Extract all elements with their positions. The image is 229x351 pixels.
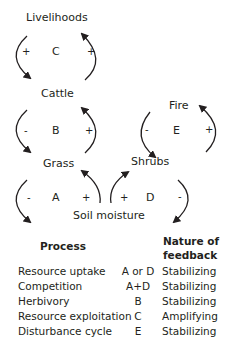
- table-row: Herbivory B Stabilizing: [0, 295, 229, 309]
- loop-d-label: D: [146, 191, 154, 204]
- node-fire: Fire: [169, 99, 189, 112]
- process-cell: Herbivory: [18, 295, 69, 307]
- loop-b-left-sign: -: [24, 125, 28, 136]
- loop-c-right-sign: +: [87, 46, 95, 57]
- node-livelihoods: Livelihoods: [26, 11, 88, 24]
- node-grass: Grass: [43, 157, 74, 170]
- node-shrubs: Shrubs: [131, 155, 169, 168]
- feedback-cell: Stabilizing: [162, 280, 216, 292]
- process-cell: Resource uptake: [18, 265, 106, 277]
- loop-d-right-sign: -: [178, 191, 182, 202]
- loop-b-label: B: [52, 124, 60, 137]
- feedback-cell: Stabilizing: [162, 295, 216, 307]
- loop-c-left-sign: +: [22, 46, 30, 57]
- feedback-cell: Stabilizing: [162, 325, 216, 337]
- table-row: Resource exploitation C Amplifying: [0, 310, 229, 324]
- loop-b-right-sign: +: [85, 125, 93, 136]
- loop-e-left-sign: -: [145, 124, 149, 135]
- loop-cell: A or D: [118, 265, 158, 277]
- header-feedback-line2: feedback: [163, 248, 217, 262]
- loop-cell: C: [118, 310, 158, 322]
- loop-e-right-sign: +: [205, 124, 213, 135]
- arrow-livelihoods-to-cattle: [16, 36, 30, 78]
- loop-cell: B: [118, 295, 158, 307]
- header-feedback-line1: Nature of: [163, 234, 219, 248]
- header-process: Process: [40, 239, 86, 253]
- arrow-cattle-to-livelihoods: [82, 34, 96, 80]
- loop-a-right-sign: +: [82, 192, 90, 203]
- loop-cell: A+D: [118, 280, 158, 292]
- table-row: Competition A+D Stabilizing: [0, 280, 229, 294]
- loop-a-label: A: [52, 191, 60, 204]
- table-row: Disturbance cycle E Stabilizing: [0, 325, 229, 339]
- loop-c-label: C: [52, 45, 60, 58]
- process-cell: Competition: [18, 280, 82, 292]
- node-soil-moisture: Soil moisture: [73, 209, 145, 222]
- loop-d-left-sign: +: [120, 192, 128, 203]
- loop-cell: E: [118, 325, 158, 337]
- node-cattle: Cattle: [41, 87, 74, 100]
- process-cell: Disturbance cycle: [18, 325, 112, 337]
- feedback-cell: Amplifying: [162, 310, 218, 322]
- process-cell: Resource exploitation: [18, 310, 132, 322]
- loop-a-left-sign: -: [27, 192, 31, 203]
- table-row: Resource uptake A or D Stabilizing: [0, 265, 229, 279]
- loop-e-label: E: [173, 124, 180, 137]
- feedback-cell: Stabilizing: [162, 265, 216, 277]
